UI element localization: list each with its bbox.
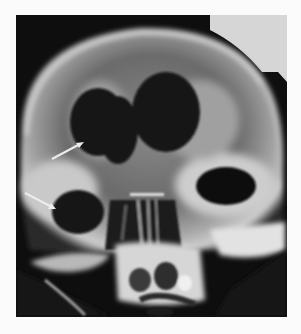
xray-image xyxy=(16,15,287,317)
skull-radiograph xyxy=(16,15,287,317)
